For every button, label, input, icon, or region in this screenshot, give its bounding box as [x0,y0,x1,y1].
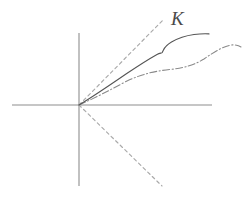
figure-container: K [0,0,242,197]
cone-upper-ray [79,20,163,105]
math-figure-svg [0,0,242,197]
cone-label-k: K [171,9,184,28]
cone-lower-ray [79,105,162,186]
solid-curve [79,34,209,105]
